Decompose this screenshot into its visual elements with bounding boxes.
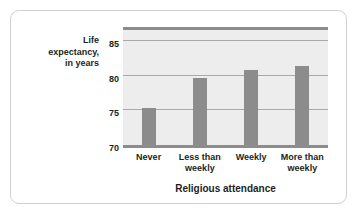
y-axis-tick: 75: [109, 108, 119, 118]
bar: [142, 108, 156, 145]
plot-area: [123, 27, 328, 148]
bar-slot: [277, 30, 328, 145]
bar-series: [123, 30, 328, 145]
x-axis-tick: More than weekly: [277, 152, 328, 174]
bar: [244, 70, 258, 145]
x-axis-tick-labels: NeverLess than weeklyWeeklyMore than wee…: [123, 152, 328, 174]
bar-slot: [174, 30, 225, 145]
y-axis-tick: 80: [109, 74, 119, 84]
bar: [295, 66, 309, 145]
y-axis-tick: 70: [109, 143, 119, 153]
y-axis-tick: 85: [109, 39, 119, 49]
chart-card: Life expectancy, in years 70758085 Never…: [10, 10, 347, 204]
x-axis-title: Religious attendance: [123, 183, 328, 194]
bar-slot: [226, 30, 277, 145]
y-axis-title: Life expectancy, in years: [21, 35, 99, 70]
x-axis-tick: Never: [123, 152, 174, 174]
bar: [193, 78, 207, 145]
x-axis-tick: Weekly: [226, 152, 277, 174]
x-axis-tick: Less than weekly: [174, 152, 225, 174]
bar-slot: [123, 30, 174, 145]
y-axis-tick-labels: 70758085: [99, 27, 119, 148]
